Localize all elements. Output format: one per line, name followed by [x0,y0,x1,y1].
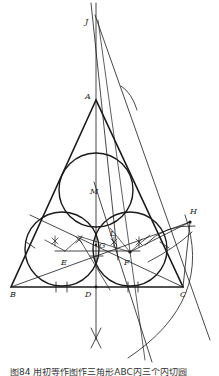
geometry-diagram: J A M H L G E F B D C [0,0,219,376]
arc-top-right [121,86,137,110]
label-e: E [60,258,67,267]
line-m-l [80,240,110,290]
label-f: F [123,258,130,267]
point-d [95,286,98,289]
label-l: L [109,229,115,238]
line-h-c [183,222,190,287]
label-b: B [9,290,16,299]
star-mark-3 [136,237,142,247]
point-g [95,244,97,246]
line-j-long [95,15,210,340]
point-h [188,220,191,223]
ray-e-1 [65,236,82,251]
label-g: G [99,241,106,250]
label-c: C [180,290,186,299]
label-a: A [84,92,91,101]
figure-caption: 图84 用初等作图作三角形ABC内三个内切圆 [10,368,215,376]
line-m-f [94,182,152,362]
label-d: D [84,290,92,299]
label-j: J [83,17,89,26]
point-f [128,250,131,253]
label-m: M [89,187,99,196]
label-h: H [189,207,198,216]
